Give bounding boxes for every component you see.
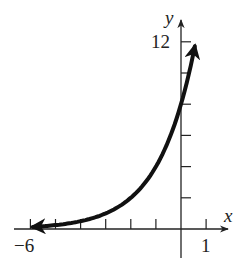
exponential-graph: x y −6 1 12 [0,0,251,270]
x-max-label: 1 [201,235,211,256]
y-max-label: 12 [151,31,170,52]
y-axis-label: y [163,7,174,28]
x-min-label: −6 [14,235,34,256]
exponential-curve [33,46,195,227]
x-axis-label: x [223,205,233,226]
